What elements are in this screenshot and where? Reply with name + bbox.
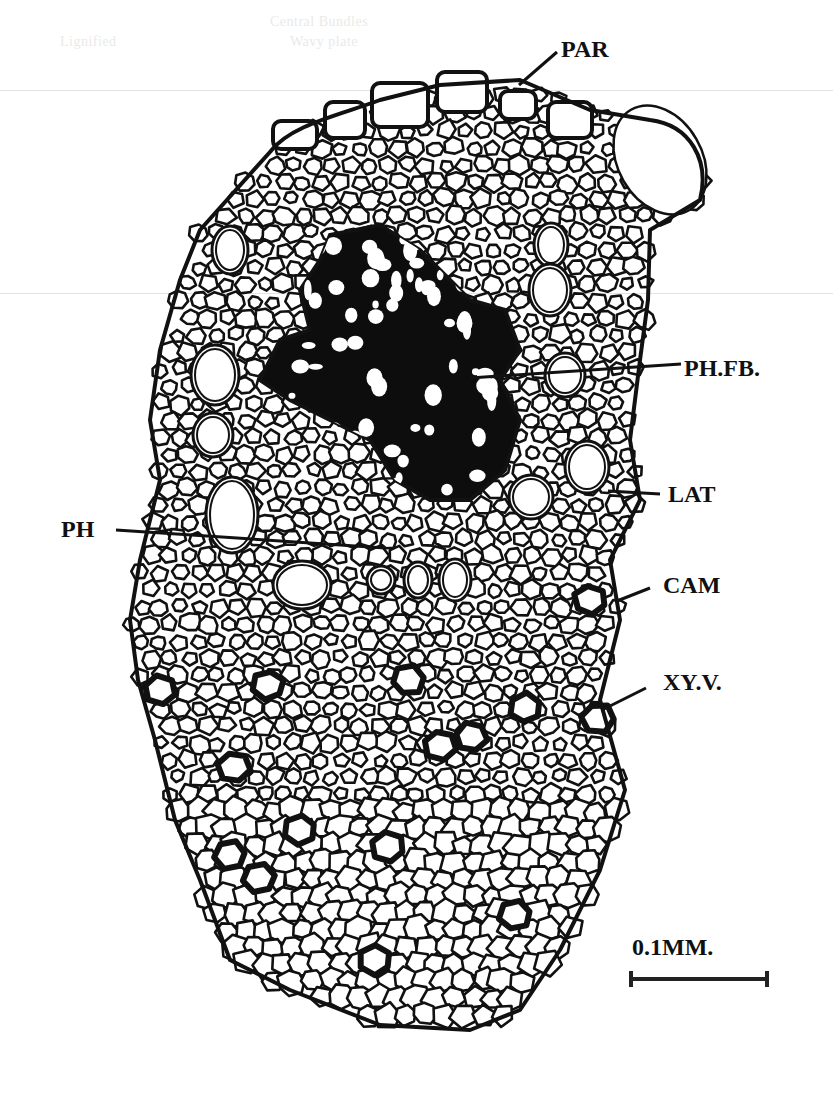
label-xylem-vessel: XY.V. — [663, 670, 722, 694]
label-laticifer: LAT — [668, 482, 716, 506]
label-cambium: CAM — [663, 573, 720, 597]
label-phloem: PH — [61, 517, 94, 541]
label-phloem-fiber-bundle: PH.FB. — [684, 356, 760, 380]
scale-bar-label: 0.1MM. — [632, 935, 769, 959]
tissue-cells — [123, 87, 712, 1028]
scale-bar-line — [629, 977, 769, 981]
scale-bar: 0.1MM. — [629, 935, 769, 981]
label-parenchyma: PAR — [561, 37, 609, 61]
